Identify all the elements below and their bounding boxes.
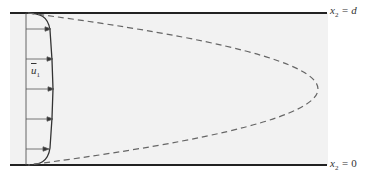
channel-region [10, 13, 328, 165]
bottom-wall-value: 0 [351, 157, 357, 169]
top-wall-rel: = [338, 4, 351, 16]
top-wall-value: d [351, 4, 357, 16]
bottom-wall-rel: = [338, 157, 351, 169]
bottom-wall-label: x2 = 0 [330, 157, 357, 172]
channel-flow-diagram [0, 0, 365, 179]
mean-velocity-label: u1 [31, 64, 40, 79]
mean-velocity-subscript: 1 [37, 71, 41, 79]
top-wall-label: x2 = d [330, 4, 357, 19]
